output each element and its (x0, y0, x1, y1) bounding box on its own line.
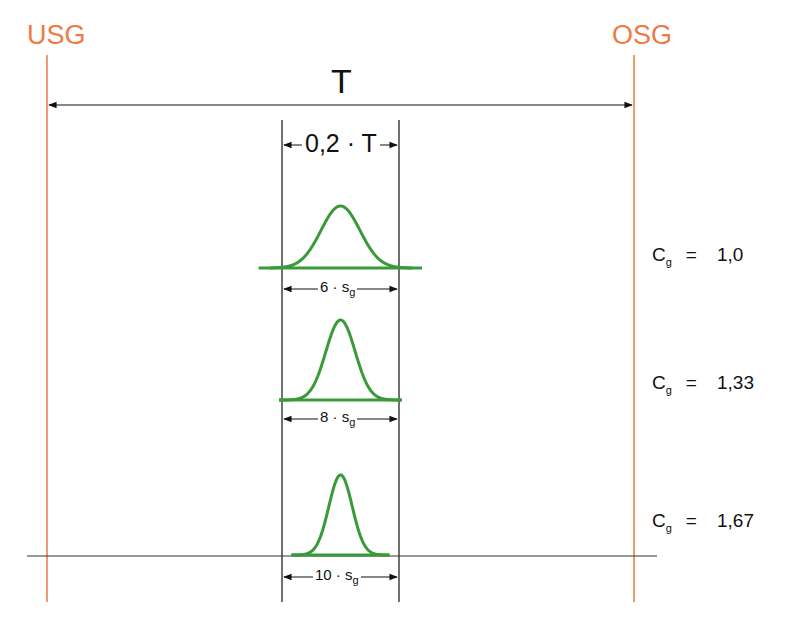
tolerance-label: T (331, 62, 352, 101)
cg-symbol: Cg (652, 244, 672, 265)
cg-value: 1,33 (717, 372, 754, 394)
cg-value: 1,0 (717, 244, 743, 266)
lower-limit-label: USG (27, 20, 86, 51)
cg-row-3: Cg=1,67 (652, 510, 754, 534)
cg-row-2: Cg=1,33 (652, 372, 754, 396)
cg-symbol: Cg (652, 510, 672, 531)
distribution-curve-1 (259, 206, 423, 268)
cg-symbol: Cg (652, 372, 672, 393)
spread-label-3: 10 · sg (313, 566, 361, 586)
distribution-curve-3 (291, 475, 389, 555)
upper-limit-label: OSG (612, 20, 672, 51)
distribution-curve-2 (279, 320, 402, 400)
spread-label-2: 8 · sg (318, 408, 357, 428)
band-label: 0,2 · T (302, 129, 380, 158)
cg-value: 1,67 (717, 510, 754, 532)
spread-label-1: 6 · sg (318, 278, 357, 298)
cg-row-1: Cg=1,0 (652, 244, 743, 268)
